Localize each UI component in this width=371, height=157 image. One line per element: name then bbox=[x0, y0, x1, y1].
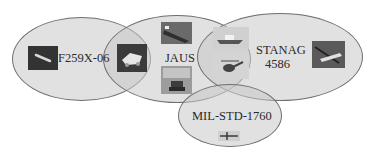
helicopter-image bbox=[213, 53, 249, 79]
venn-diagram: F259X-06 JAUS STANAG 4586 MIL-STD-1760 bbox=[0, 0, 371, 157]
label-jaus: JAUS bbox=[165, 51, 195, 65]
aircraft-icon bbox=[218, 131, 240, 141]
label-f259x: F259X-06 bbox=[58, 51, 109, 65]
boat-icon bbox=[213, 27, 249, 49]
aircraft-image bbox=[218, 131, 240, 141]
robot-vehicle-icon bbox=[117, 44, 147, 72]
boat-image bbox=[213, 27, 249, 49]
label-milstd: MIL-STD-1760 bbox=[192, 109, 272, 123]
label-stanag-line1: STANAG bbox=[256, 43, 306, 57]
tracked-robot-icon bbox=[161, 66, 192, 94]
tracked-robot-image bbox=[161, 66, 192, 94]
uav-icon bbox=[312, 41, 345, 68]
uav-image bbox=[312, 41, 345, 68]
helicopter-icon bbox=[213, 53, 249, 79]
ship-image bbox=[161, 22, 192, 44]
ground-robot-image bbox=[117, 44, 147, 72]
label-stanag-line2: 4586 bbox=[265, 57, 290, 71]
ship-icon bbox=[161, 22, 192, 44]
missile-image bbox=[28, 46, 58, 70]
missile-icon bbox=[28, 46, 58, 70]
